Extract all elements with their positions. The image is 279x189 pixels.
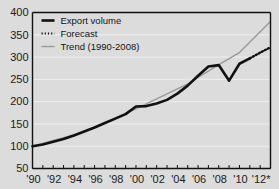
legend-label-trend: Trend (1990-2008) — [61, 41, 140, 52]
x-axis-tick-label: '12* — [252, 173, 271, 185]
export-volume-chart: 50100150200250300350400 '90'92'94'96'98'… — [0, 0, 279, 189]
x-axis-tick-label: '02 — [151, 173, 165, 185]
y-axis-tick-label: 100 — [10, 140, 28, 152]
x-axis-tick-label: '96 — [88, 173, 102, 185]
x-axis-tick-label: '08 — [213, 173, 227, 185]
x-axis-tick-label: '92 — [47, 173, 61, 185]
x-axis-tick-label: '04 — [171, 173, 185, 185]
x-axis-tick-label: '06 — [192, 173, 206, 185]
y-axis-tick-label: 350 — [10, 29, 28, 41]
legend-label-forecast: Forecast — [61, 28, 98, 39]
chart-background — [0, 0, 279, 189]
y-axis-tick-label: 250 — [10, 73, 28, 85]
y-axis-tick-label: 200 — [10, 95, 28, 107]
x-axis-tick-label: '10 — [233, 173, 247, 185]
chart-canvas: 50100150200250300350400 '90'92'94'96'98'… — [0, 0, 279, 189]
legend-label-export-volume: Export volume — [61, 15, 122, 26]
x-axis-tick-label: '94 — [68, 173, 82, 185]
y-axis-tick-label: 300 — [10, 51, 28, 63]
x-axis-tick-label: '90 — [26, 173, 40, 185]
x-axis-tick-label: '98 — [109, 173, 123, 185]
x-axis-tick-label: '00 — [130, 173, 144, 185]
y-axis-tick-label: 150 — [10, 118, 28, 130]
y-axis-tick-label: 400 — [10, 6, 28, 18]
